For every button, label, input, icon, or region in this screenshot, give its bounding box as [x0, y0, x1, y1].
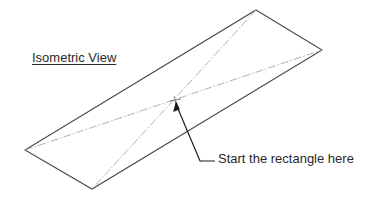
isometric-diagram — [0, 0, 379, 197]
callout-label: Start the rectangle here — [218, 151, 354, 166]
view-title: Isometric View — [32, 50, 116, 65]
leader-line — [176, 104, 215, 161]
